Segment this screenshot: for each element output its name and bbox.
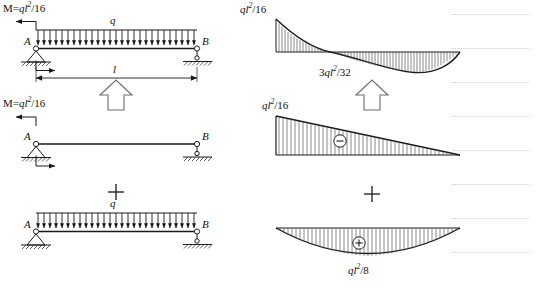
minus-circle-icon bbox=[334, 135, 346, 147]
ruled-line-5 bbox=[452, 184, 530, 185]
support-label-B-3: B bbox=[202, 219, 209, 230]
load-label-panel-1: q bbox=[110, 15, 116, 26]
support-label-A-1: A bbox=[24, 36, 31, 47]
figure-root: M=ql2/16 q A B l M=ql2/16 A B q A B ql2/… bbox=[0, 0, 537, 289]
ruled-line-4 bbox=[452, 150, 530, 151]
right-superposition-up-arrow bbox=[356, 80, 388, 110]
right-panel-3-parabolic-moment-diagram bbox=[276, 228, 460, 256]
combined-moment-curve bbox=[276, 19, 460, 73]
distributed-load-arrows-3 bbox=[38, 213, 194, 228]
end-moment-arrow-top bbox=[16, 22, 36, 31]
support-label-A-3: A bbox=[24, 219, 31, 230]
left-superposition-up-arrow bbox=[100, 80, 132, 110]
support-label-A-2: A bbox=[24, 131, 31, 142]
load-label-panel-3: q bbox=[110, 198, 116, 209]
left-panel-3-beam-with-load-only bbox=[21, 213, 212, 249]
left-panel-2-beam-with-moment-only bbox=[16, 117, 212, 166]
peak-label-right-1: ql2/16 bbox=[240, 4, 266, 15]
right-panel-2-triangular-moment-diagram bbox=[276, 116, 460, 155]
ruled-line-7 bbox=[452, 252, 530, 253]
span-label: l bbox=[113, 64, 116, 75]
plus-circle-icon bbox=[353, 237, 365, 249]
ruled-line-0 bbox=[452, 14, 530, 15]
mid-label-right-1: 3ql2/32 bbox=[319, 67, 351, 78]
distributed-load-arrows-1 bbox=[38, 30, 194, 45]
support-label-B-1: B bbox=[202, 36, 209, 47]
moment-label-panel-2: M=ql2/16 bbox=[3, 98, 45, 109]
ruled-line-1 bbox=[452, 48, 530, 49]
ruled-line-3 bbox=[452, 116, 530, 117]
support-label-B-2: B bbox=[202, 131, 209, 142]
peak-label-right-3: ql2/8 bbox=[348, 265, 369, 276]
ruled-line-2 bbox=[452, 82, 530, 83]
moment-label-panel-1: M=ql2/16 bbox=[3, 3, 45, 14]
peak-label-right-2: ql2/16 bbox=[262, 100, 288, 111]
triangular-moment-edge bbox=[276, 116, 460, 155]
right-plus-sign bbox=[364, 186, 380, 202]
right-panel-1-combined-moment-diagram bbox=[276, 19, 460, 73]
beam-diagram-canvas bbox=[0, 0, 537, 289]
end-moment-arrow-top-2 bbox=[16, 117, 36, 126]
ruled-line-6 bbox=[452, 218, 530, 219]
